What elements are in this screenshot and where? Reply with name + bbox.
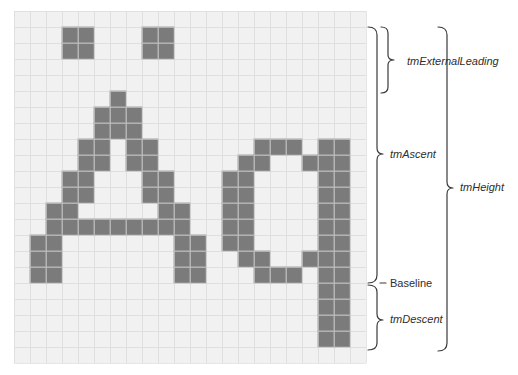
baseline-label: Baseline [390,278,432,289]
external-leading-brace [381,27,394,93]
ascent-label: tmAscent [390,149,436,160]
descent-brace [368,285,383,350]
height-brace [438,27,453,351]
ascent-brace [368,27,383,283]
descent-label: tmDescent [390,314,443,325]
height-label: tmHeight [460,182,504,193]
external-leading-label: tmExternalLeading [407,56,499,67]
